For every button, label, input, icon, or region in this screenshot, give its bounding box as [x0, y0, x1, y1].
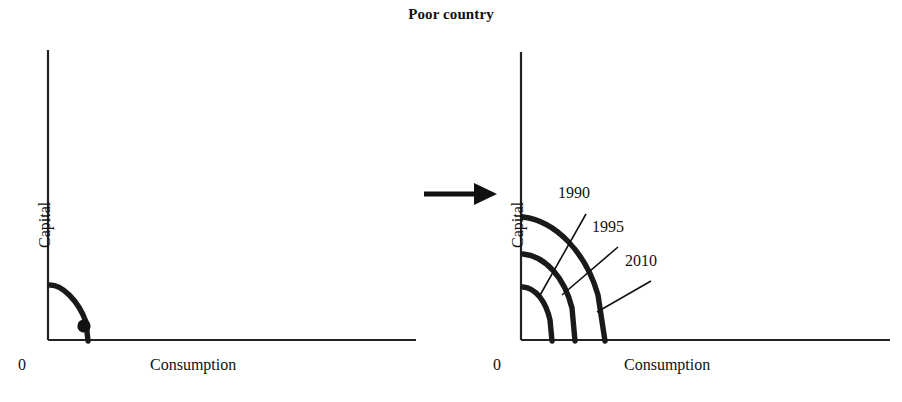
curve-frontier-1990	[523, 287, 552, 341]
left-panel-curves	[50, 285, 91, 341]
curve-label-1995: 1995	[592, 218, 624, 236]
curve-label-2010: 2010	[625, 252, 657, 270]
right-y-axis-label: Capital	[509, 202, 527, 248]
left-origin-label: 0	[18, 356, 26, 374]
figure-canvas	[0, 0, 902, 402]
right-origin-label: 0	[493, 356, 501, 374]
right-x-axis-label: Consumption	[624, 356, 710, 374]
curve-production-possibility-frontier	[50, 285, 88, 341]
left-x-axis-label: Consumption	[150, 356, 236, 374]
left-y-axis-label: Capital	[36, 202, 54, 248]
left-panel-axes	[48, 50, 416, 340]
allocation-point-marker	[77, 319, 90, 332]
figure-container: Poor country	[0, 0, 902, 402]
leader-line-1995	[562, 247, 618, 295]
curve-label-1990: 1990	[558, 184, 590, 202]
right-arrow-icon	[424, 183, 497, 205]
leader-line-2010	[597, 281, 651, 312]
